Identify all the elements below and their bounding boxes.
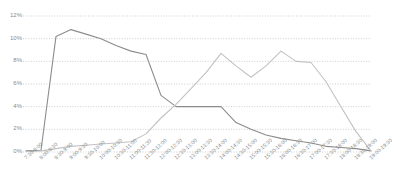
series-line — [26, 51, 371, 151]
y-axis-tick-label: 12% — [0, 12, 22, 18]
gridlines — [23, 16, 371, 152]
series-line — [26, 30, 371, 151]
y-axis-tick-label: 4% — [0, 103, 22, 109]
y-axis-tick-label: 6% — [0, 80, 22, 86]
series-layer — [26, 30, 371, 152]
y-axis-tick-label: 2% — [0, 125, 22, 131]
y-axis-tick-label: 10% — [0, 35, 22, 41]
y-axis-tick-label: 0% — [0, 148, 22, 154]
y-axis-tick-label: 8% — [0, 57, 22, 63]
